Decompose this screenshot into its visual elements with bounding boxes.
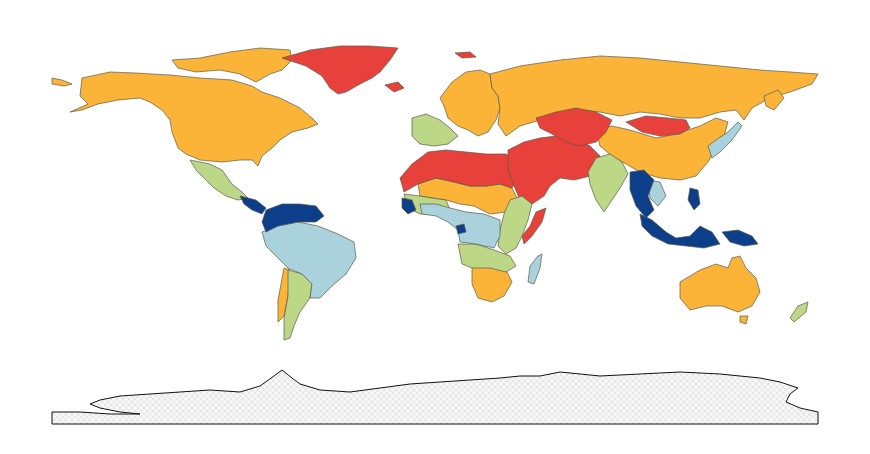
region-alaska-canada-usa[interactable] bbox=[70, 72, 318, 166]
region-madagascar[interactable] bbox=[528, 254, 542, 284]
region-tasmania[interactable] bbox=[740, 316, 748, 324]
region-gabon[interactable] bbox=[456, 224, 466, 234]
region-new-zealand[interactable] bbox=[790, 302, 808, 322]
region-india[interactable] bbox=[588, 154, 628, 212]
region-iceland[interactable] bbox=[385, 82, 404, 92]
region-svalbard[interactable] bbox=[455, 52, 476, 58]
region-mexico[interactable] bbox=[190, 160, 248, 200]
region-middle-east[interactable] bbox=[508, 136, 600, 204]
region-central-america[interactable] bbox=[240, 196, 266, 214]
region-antarctica[interactable] bbox=[52, 370, 818, 424]
region-argentina[interactable] bbox=[284, 270, 312, 340]
region-alaska-west[interactable] bbox=[52, 78, 72, 86]
region-indonesia[interactable] bbox=[640, 214, 720, 248]
region-australia[interactable] bbox=[680, 256, 760, 312]
world-choropleth-map bbox=[0, 0, 870, 454]
region-papua[interactable] bbox=[722, 230, 758, 246]
region-philippines[interactable] bbox=[688, 188, 700, 210]
region-greenland[interactable] bbox=[282, 46, 398, 94]
